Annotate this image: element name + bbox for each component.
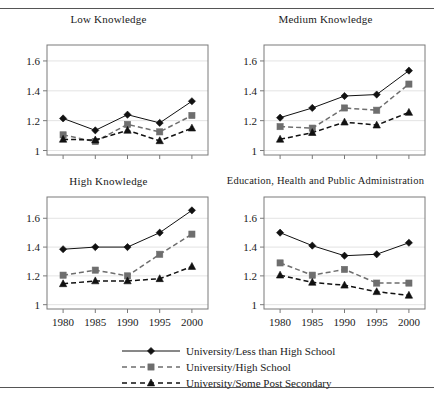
- svg-text:1985: 1985: [84, 316, 107, 328]
- svg-text:1.6: 1.6: [26, 212, 40, 224]
- svg-text:2000: 2000: [181, 316, 204, 328]
- svg-text:1.4: 1.4: [243, 241, 257, 253]
- svg-text:1.4: 1.4: [26, 85, 40, 97]
- legend-item-university-some-post-secondary: University/Some Post Secondary: [120, 375, 335, 391]
- svg-text:1.2: 1.2: [26, 270, 40, 282]
- svg-text:1.4: 1.4: [243, 85, 257, 97]
- svg-text:1990: 1990: [334, 316, 357, 328]
- panels-container: Low Knowledge 11.21.41.6 Medium Knowledg…: [0, 9, 434, 339]
- svg-text:1.2: 1.2: [243, 270, 257, 282]
- legend-label-university-less-than-high-school: University/Less than High School: [186, 345, 335, 357]
- panel-medium-knowledge: Medium Knowledge 11.21.41.6: [217, 9, 434, 171]
- svg-text:1: 1: [35, 299, 41, 311]
- svg-text:1990: 1990: [117, 316, 140, 328]
- legend-label-university-high-school: University/High School: [186, 361, 291, 373]
- svg-text:1995: 1995: [366, 316, 389, 328]
- panel-high-knowledge: High Knowledge 11.21.41.6198019851990199…: [0, 171, 217, 339]
- legend-rows: University/Less than High School Univers…: [120, 343, 335, 391]
- legend-key-triangle-dashed-icon: [120, 376, 182, 390]
- svg-text:1.2: 1.2: [243, 115, 257, 127]
- plot-area-medium-knowledge: 11.21.41.6: [217, 9, 434, 171]
- svg-text:1: 1: [35, 145, 41, 157]
- svg-text:1980: 1980: [52, 316, 75, 328]
- panel-education-health-public-admin: Education, Health and Public Administrat…: [217, 171, 434, 339]
- plot-area-low-knowledge: 11.21.41.6: [0, 9, 217, 171]
- legend-key-square-dashed-icon: [120, 360, 182, 374]
- plot-area-high-knowledge: 11.21.41.619801985199019952000: [0, 171, 217, 339]
- legend-key-diamond-solid-icon: [120, 344, 182, 358]
- svg-text:1.2: 1.2: [26, 115, 40, 127]
- legend-item-university-less-than-high-school: University/Less than High School: [120, 343, 335, 359]
- svg-text:1.6: 1.6: [26, 55, 40, 67]
- panel-low-knowledge: Low Knowledge 11.21.41.6: [0, 9, 217, 171]
- svg-text:1.4: 1.4: [26, 241, 40, 253]
- svg-text:1995: 1995: [149, 316, 172, 328]
- plot-area-education-health-public-admin: 11.21.41.619801985199019952000: [217, 171, 434, 339]
- svg-text:1.6: 1.6: [243, 212, 257, 224]
- svg-text:1.6: 1.6: [243, 55, 257, 67]
- svg-text:1985: 1985: [301, 316, 324, 328]
- figure-legend: University/Less than High School Univers…: [0, 339, 434, 387]
- svg-text:1: 1: [252, 145, 258, 157]
- svg-text:2000: 2000: [398, 316, 421, 328]
- svg-text:1: 1: [252, 299, 258, 311]
- legend-label-university-some-post-secondary: University/Some Post Secondary: [186, 377, 331, 389]
- svg-text:1980: 1980: [269, 316, 292, 328]
- legend-item-university-high-school: University/High School: [120, 359, 335, 375]
